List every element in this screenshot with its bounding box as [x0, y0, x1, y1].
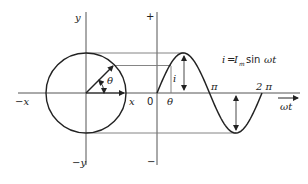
phasor-pos-x-label: x [129, 96, 135, 107]
two-pi-label: 2 π [255, 81, 273, 92]
phasor-angle-label: θ [107, 75, 113, 86]
phasor-sine-diagram: y −y x −x θ + − 0 θ i π 2 π ωt i = I m s… [0, 0, 308, 184]
wave-origin-label: 0 [147, 96, 153, 107]
phasor-neg-x-label: −x [15, 96, 29, 107]
phasor-neg-y-label: −y [72, 157, 86, 168]
pi-label: π [210, 81, 218, 92]
equation-function: sin [246, 54, 260, 65]
angle-arc [99, 80, 104, 93]
equation-amplitude-subscript: m [239, 60, 245, 67]
equation: i = I m sin ωt [222, 54, 277, 67]
wave-minus-label: − [147, 156, 155, 167]
instant-value-label: i [173, 73, 176, 84]
phasor-pos-y-label: y [74, 12, 81, 23]
wave-plus-label: + [146, 11, 154, 22]
equation-lhs: i [222, 54, 225, 65]
time-axis-label: ωt [280, 101, 293, 112]
diagram-canvas: y −y x −x θ + − 0 θ i π 2 π ωt i = I m s… [0, 0, 308, 184]
equation-argument: ωt [264, 54, 277, 65]
wave-theta-label: θ [167, 96, 173, 107]
